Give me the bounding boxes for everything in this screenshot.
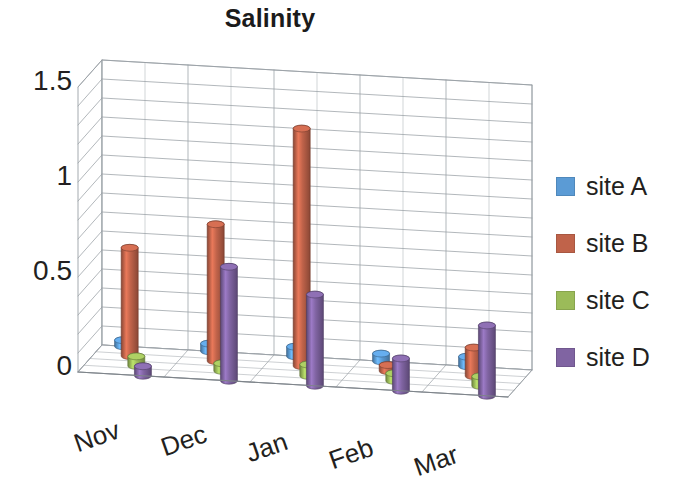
bar-site-D-Feb	[392, 355, 409, 394]
bar-site-B-Nov	[121, 244, 138, 359]
left-wall	[78, 60, 102, 372]
legend-label: site A	[586, 174, 647, 199]
bar-site-D-Jan	[306, 291, 323, 389]
chart-legend: site Asite Bsite Csite D	[556, 158, 684, 386]
legend-item-site-d[interactable]: site D	[556, 329, 684, 386]
legend-label: site C	[586, 288, 650, 313]
bar-site-D-Dec	[220, 263, 237, 384]
legend-swatch-icon	[556, 234, 575, 253]
bar-site-D-Mar	[478, 322, 495, 399]
legend-label: site D	[586, 345, 650, 370]
bar-site-D-Nov	[134, 363, 151, 379]
legend-label: site B	[586, 231, 649, 256]
legend-swatch-icon	[556, 291, 575, 310]
legend-item-site-c[interactable]: site C	[556, 272, 684, 329]
legend-item-site-a[interactable]: site A	[556, 158, 684, 215]
legend-swatch-icon	[556, 177, 575, 196]
legend-swatch-icon	[556, 348, 575, 367]
legend-item-site-b[interactable]: site B	[556, 215, 684, 272]
